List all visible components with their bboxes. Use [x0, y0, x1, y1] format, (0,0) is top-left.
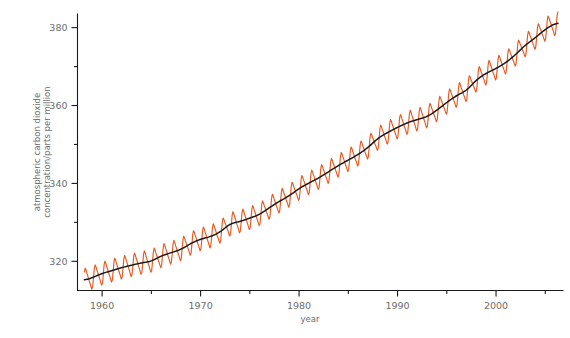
- y-tick-label: 340: [49, 178, 67, 189]
- x-tick-label: 1960: [90, 300, 114, 311]
- chart-background: [0, 0, 570, 338]
- y-tick-label: 380: [49, 22, 67, 33]
- x-tick-label: 2000: [484, 300, 508, 311]
- x-tick-label: 1990: [385, 300, 409, 311]
- x-axis-title: year: [301, 314, 320, 324]
- chart-canvas: 320340360380 19601970198019902000 year a…: [0, 0, 570, 338]
- y-axis-title-line1: atmospheric carbon dioxide: [32, 93, 42, 211]
- co2-chart: 320340360380 19601970198019902000 year a…: [0, 0, 570, 338]
- y-tick-label: 320: [49, 256, 67, 267]
- x-tick-label: 1980: [287, 300, 311, 311]
- x-tick-label: 1970: [189, 300, 213, 311]
- y-tick-label: 360: [49, 100, 67, 111]
- y-axis-title-line2: concentration/parts per million: [42, 86, 52, 217]
